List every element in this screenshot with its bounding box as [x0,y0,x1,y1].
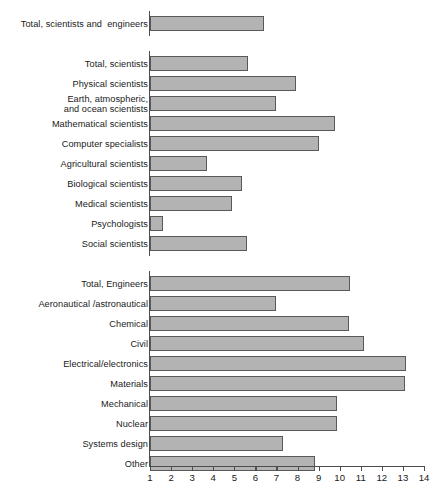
bar [150,296,276,311]
x-axis-tick [361,466,362,471]
x-axis-tick [255,466,256,471]
bar-row: Civil [0,336,444,351]
bar-category-label: Materials [110,378,148,389]
bar-category-label: Agricultural scientists [61,158,148,169]
bar-category-label: Total, scientists and engineers [21,18,148,29]
bar-row: Nuclear [0,416,444,431]
bar-row: Other [0,456,444,471]
bar [150,336,364,351]
bar [150,96,276,111]
x-axis-tick-label: 14 [412,472,436,483]
bar [150,396,337,411]
bar-row: Biological scientists [0,176,444,191]
x-axis-tick [298,466,299,471]
bar-category-label: Other [125,458,148,469]
x-axis-tick [382,466,383,471]
x-axis-tick [213,466,214,471]
bar-category-label: Total, Engineers [81,278,148,289]
bar-chart: Total, scientists and engineersTotal, sc… [0,0,444,500]
bar [150,316,349,331]
bar-category-label: Earth, atmospheric, and ocean scientists [64,93,148,113]
y-axis-segment-0 [149,11,150,36]
x-axis-tick [424,466,425,471]
bar-row: Aeronautical /astronautical [0,296,444,311]
bar-row: Medical scientists [0,196,444,211]
bar [150,356,406,371]
bar-row: Mathematical scientists [0,116,444,131]
bar-row: Computer specialists [0,136,444,151]
bar [150,456,315,471]
bar [150,156,207,171]
bar-row: Materials [0,376,444,391]
x-axis-tick [150,466,151,471]
bar-category-label: Total, scientists [85,58,148,69]
x-axis-line [149,466,425,467]
bar-row: Total, Engineers [0,276,444,291]
bar-row: Psychologists [0,216,444,231]
bar-row: Mechanical [0,396,444,411]
y-axis-segment-2 [149,271,150,467]
bar [150,236,247,251]
x-axis-tick [403,466,404,471]
x-axis-tick [340,466,341,471]
x-axis-tick [192,466,193,471]
bar-category-label: Psychologists [91,218,148,229]
bar-row: Total, scientists [0,56,444,71]
bar-row: Social scientists [0,236,444,251]
bar-row: Electrical/electronics [0,356,444,371]
bar-category-label: Social scientists [82,238,148,249]
bar [150,116,335,131]
bar [150,76,296,91]
bar-row: Agricultural scientists [0,156,444,171]
bar [150,436,283,451]
bar [150,376,405,391]
bar [150,276,350,291]
x-axis-tick [276,466,277,471]
bar-category-label: Medical scientists [75,198,148,209]
y-axis-segment-1 [149,51,150,256]
x-axis-tick [234,466,235,471]
bar [150,416,337,431]
bar-category-label: Civil [130,338,148,349]
bar [150,196,232,211]
bar-row: Physical scientists [0,76,444,91]
bar-category-label: Chemical [109,318,148,329]
bar-category-label: Electrical/electronics [63,358,148,369]
bar-row: Chemical [0,316,444,331]
bar-category-label: Mathematical scientists [52,118,148,129]
bar [150,136,319,151]
x-axis-tick [319,466,320,471]
bar [150,176,242,191]
bar [150,216,163,231]
bar [150,16,264,31]
bar-category-label: Aeronautical /astronautical [38,298,148,309]
bar-category-label: Physical scientists [73,78,149,89]
bar [150,56,248,71]
bar-category-label: Biological scientists [67,178,148,189]
bar-category-label: Systems design [82,438,148,449]
plot-area: Total, scientists and engineersTotal, sc… [0,0,444,500]
bar-row: Total, scientists and engineers [0,16,444,31]
x-axis-tick [171,466,172,471]
bar-category-label: Mechanical [101,398,148,409]
bar-row: Earth, atmospheric, and ocean scientists [0,96,444,111]
bar-row: Systems design [0,436,444,451]
bar-category-label: Computer specialists [62,138,148,149]
bar-category-label: Nuclear [116,418,148,429]
